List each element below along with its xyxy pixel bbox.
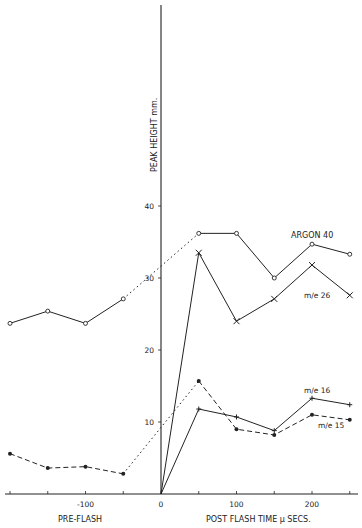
x-tick-label: 200: [305, 500, 320, 509]
data-point: [310, 242, 314, 246]
data-point: [234, 414, 239, 419]
data-point: [272, 276, 276, 280]
data-point: [84, 321, 88, 325]
legend-me-16: m/e 16: [304, 386, 331, 395]
data-point: [234, 318, 240, 324]
data-point: [8, 321, 12, 325]
data-point: [309, 262, 315, 268]
data-point: [235, 427, 239, 431]
data-point: [46, 466, 50, 470]
y-tick-label: 40: [144, 202, 154, 211]
data-point: [347, 292, 353, 298]
data-point: [235, 231, 239, 235]
x-tick-label: 0: [159, 500, 164, 509]
data-point: [46, 309, 50, 313]
axes: -100010020010203040: [5, 5, 358, 509]
data-point: [8, 452, 12, 456]
data-point: [197, 379, 201, 383]
data-point: [348, 418, 352, 422]
x-tick-label: 100: [229, 500, 244, 509]
data-point: [121, 297, 125, 301]
data-point: [348, 252, 352, 256]
data-point: [84, 465, 88, 469]
data-point: [271, 296, 277, 302]
data-point: [310, 413, 314, 417]
legend-me-26: m/e 26: [304, 291, 331, 300]
x-tick-label: -100: [77, 500, 94, 509]
data-point: [272, 433, 276, 437]
x-axis-label-preflash: PRE-FLASH: [58, 515, 102, 524]
legend-argon-40: ARGON 40: [291, 231, 333, 240]
data-point: [347, 402, 352, 407]
x-axis-label-postflash: POST FLASH TIME μ SECS.: [206, 515, 311, 524]
data-point: [197, 231, 201, 235]
y-tick-label: 10: [144, 418, 154, 427]
data-point: [121, 472, 125, 476]
legend-me-15: m/e 15: [318, 421, 345, 430]
y-tick-label: 20: [144, 346, 154, 355]
line-chart: -100010020010203040 PRE-FLASH POST FLASH…: [0, 0, 362, 528]
y-tick-label: 30: [144, 274, 154, 283]
data-point: [196, 407, 201, 412]
plot-area: [8, 231, 353, 494]
y-axis-label: PEAK HEIGHT mm.: [150, 98, 159, 172]
